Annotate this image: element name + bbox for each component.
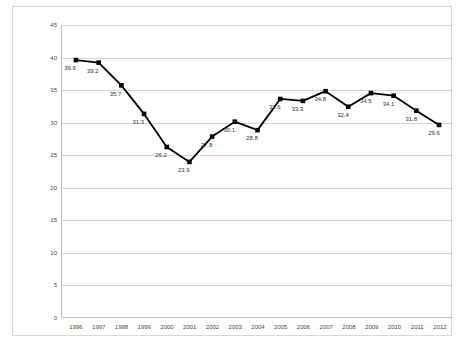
data-point-2005 xyxy=(278,97,283,102)
data-label-2006: 33.3 xyxy=(292,106,304,112)
x-tick-1997: 1997 xyxy=(92,324,105,330)
data-point-2011 xyxy=(414,108,419,113)
data-label-2011: 31.8 xyxy=(405,116,417,122)
data-point-2003 xyxy=(233,119,238,124)
data-label-1997: 39.2 xyxy=(87,68,99,74)
chart-outer-frame: 051015202530354045 199619971998199920002… xyxy=(12,6,452,336)
y-tick-45: 45 xyxy=(50,22,57,28)
data-label-2012: 29.6 xyxy=(428,130,440,136)
data-point-2007 xyxy=(323,89,328,94)
x-tick-2008: 2008 xyxy=(342,324,355,330)
data-label-2008: 32.4 xyxy=(337,112,349,118)
x-tick-1996: 1996 xyxy=(69,324,82,330)
plot-area: 051015202530354045 199619971998199920002… xyxy=(61,25,453,318)
series-polyline xyxy=(76,60,439,162)
data-label-2009: 34.5 xyxy=(360,98,372,104)
data-point-2000 xyxy=(164,145,169,150)
data-label-1998: 35.7 xyxy=(110,91,122,97)
y-tick-0: 0 xyxy=(54,315,57,321)
x-tick-2001: 2001 xyxy=(183,324,196,330)
series-line xyxy=(62,25,453,317)
y-tick-15: 15 xyxy=(50,217,57,223)
data-point-2006 xyxy=(301,99,306,104)
data-label-2001: 23.9 xyxy=(178,167,190,173)
x-tick-2000: 2000 xyxy=(160,324,173,330)
data-label-2000: 26.2 xyxy=(155,152,167,158)
data-point-2002 xyxy=(210,134,215,139)
data-point-2012 xyxy=(437,123,442,128)
chart-figure: 051015202530354045 199619971998199920002… xyxy=(0,0,464,345)
x-tick-2005: 2005 xyxy=(274,324,287,330)
y-tick-20: 20 xyxy=(50,185,57,191)
x-tick-1998: 1998 xyxy=(115,324,128,330)
data-label-2002: 27.8 xyxy=(201,142,213,148)
data-point-2001 xyxy=(187,160,192,165)
x-tick-1999: 1999 xyxy=(138,324,151,330)
y-tick-35: 35 xyxy=(50,87,57,93)
y-tick-10: 10 xyxy=(50,250,57,256)
data-label-2007: 34.8 xyxy=(314,96,326,102)
data-point-2008 xyxy=(346,104,351,109)
x-tick-2010: 2010 xyxy=(388,324,401,330)
data-label-2004: 28.8 xyxy=(246,135,258,141)
data-label-1996: 39.6 xyxy=(64,65,76,71)
data-point-1998 xyxy=(119,83,124,88)
x-tick-2006: 2006 xyxy=(297,324,310,330)
data-label-2005: 33.6 xyxy=(269,104,281,110)
series-markers xyxy=(74,58,442,164)
data-label-2010: 34.1 xyxy=(383,101,395,107)
x-tick-2004: 2004 xyxy=(251,324,264,330)
data-point-1996 xyxy=(74,58,79,63)
y-tick-5: 5 xyxy=(54,282,57,288)
data-point-1997 xyxy=(96,60,101,65)
data-point-1999 xyxy=(142,112,147,117)
data-point-2009 xyxy=(369,91,374,96)
x-tick-2003: 2003 xyxy=(229,324,242,330)
data-label-1999: 31.3 xyxy=(132,119,144,125)
y-tick-30: 30 xyxy=(50,120,57,126)
y-tick-40: 40 xyxy=(50,55,57,61)
x-tick-2002: 2002 xyxy=(206,324,219,330)
x-tick-2009: 2009 xyxy=(365,324,378,330)
y-tick-25: 25 xyxy=(50,152,57,158)
x-tick-2011: 2011 xyxy=(411,324,424,330)
data-label-2003: 30.1 xyxy=(223,127,235,133)
x-tick-2012: 2012 xyxy=(433,324,446,330)
x-tick-2007: 2007 xyxy=(320,324,333,330)
data-point-2004 xyxy=(255,128,260,133)
data-point-2010 xyxy=(391,93,396,98)
